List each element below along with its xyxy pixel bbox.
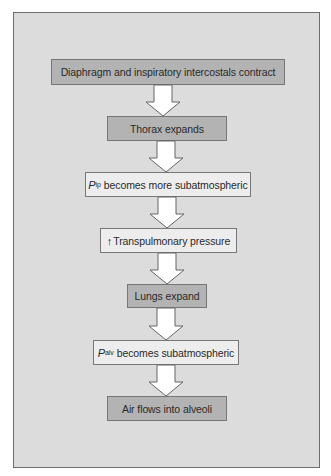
pressure-subscript: ip: [96, 181, 101, 188]
step-label: becomes subatmospheric: [117, 347, 234, 359]
down-arrow-icon: [149, 365, 185, 396]
down-arrow-icon: [146, 85, 182, 116]
pressure-symbol: P: [98, 347, 105, 359]
step-transpulmonary-pressure: ↑Transpulmonary pressure: [100, 228, 237, 253]
step-label: becomes more subatmospheric: [104, 179, 248, 191]
step-air-flows-alveoli: Air flows into alveoli: [107, 396, 227, 421]
down-arrow-icon: [149, 141, 185, 172]
step-label: Lungs expand: [135, 290, 200, 302]
step-lungs-expand: Lungs expand: [127, 284, 207, 308]
up-arrow-icon: ↑: [107, 235, 112, 247]
pressure-symbol: P: [88, 179, 95, 191]
down-arrow-icon: [150, 197, 186, 228]
pressure-subscript: alv: [105, 349, 114, 356]
down-arrow-icon: [149, 308, 185, 340]
step-label: Thorax expands: [130, 123, 204, 135]
down-arrow-icon: [150, 253, 186, 284]
step-palv-subatmospheric: Palvbecomes subatmospheric: [93, 340, 239, 365]
step-label: Diaphragm and inspiratory intercostals c…: [61, 66, 276, 78]
step-pip-subatmospheric: Pipbecomes more subatmospheric: [85, 172, 251, 197]
step-diaphragm-contract: Diaphragm and inspiratory intercostals c…: [51, 59, 285, 85]
step-label: Air flows into alveoli: [122, 403, 212, 415]
step-thorax-expands: Thorax expands: [107, 116, 227, 141]
step-label: Transpulmonary pressure: [113, 235, 230, 247]
